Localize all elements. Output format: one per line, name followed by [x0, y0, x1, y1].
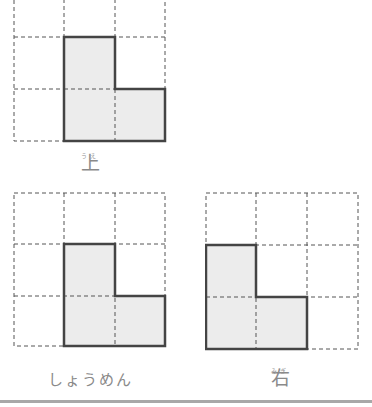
right-view-grid — [205, 192, 360, 351]
right-view-furigana: みぎ — [271, 361, 289, 381]
top-view-grid — [13, 0, 167, 144]
top-view-label: うえ 上 — [70, 153, 110, 173]
right-view-label: みぎ 右 — [260, 368, 300, 388]
front-view-label: しょうめん — [20, 368, 160, 389]
front-view-grid — [13, 192, 167, 348]
bottom-divider — [0, 400, 372, 403]
top-view-furigana: うえ — [81, 146, 99, 166]
